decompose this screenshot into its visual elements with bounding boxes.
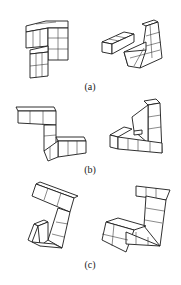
cube-figure-a-left — [24, 18, 74, 80]
cube-figure-b-right — [104, 97, 166, 157]
cube-figure-c-left — [26, 182, 82, 254]
cube-figure-b-left — [14, 103, 90, 163]
subfigure-label-a: (a) — [70, 81, 110, 93]
mental-rotation-figure: (a) (b) — [0, 0, 181, 285]
cube-figure-a-right — [100, 20, 164, 72]
subfigure-label-c: (c) — [70, 259, 110, 271]
subfigure-label-b: (b) — [70, 164, 110, 176]
cube-figure-c-right — [100, 182, 172, 254]
